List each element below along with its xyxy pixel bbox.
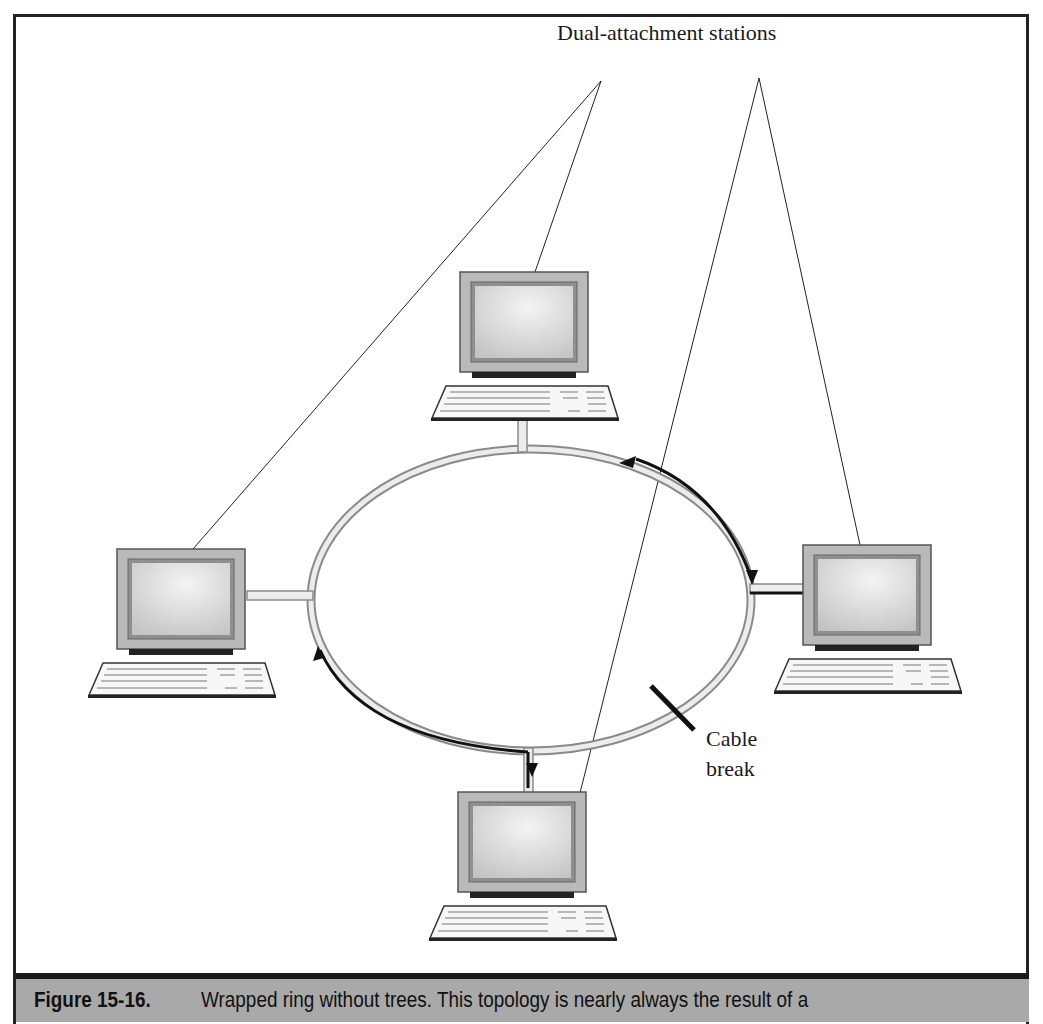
cable-break-line1: Cable xyxy=(706,724,757,754)
figure-caption: Figure 15-16. Wrapped ring without trees… xyxy=(16,973,1029,1022)
top-station xyxy=(431,272,619,421)
ring-cable xyxy=(311,449,751,751)
figure-number: Figure 15-16. xyxy=(34,987,151,1013)
stations-label: Dual-attachment stations xyxy=(557,20,776,46)
left-station xyxy=(88,549,276,698)
cable-break-line2: break xyxy=(706,754,757,784)
right-station xyxy=(774,545,962,694)
caption-text: Wrapped ring without trees. This topolog… xyxy=(201,987,808,1013)
bottom-station xyxy=(429,792,617,941)
cable-break-label: Cable break xyxy=(706,724,757,784)
